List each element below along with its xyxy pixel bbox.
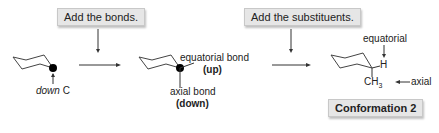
conformation-badge: Conformation 2 [328, 99, 423, 117]
step-label: Add the substituents. [251, 11, 354, 23]
down-carbon-dot [49, 64, 57, 72]
cyclohexane-chair-2 [139, 55, 180, 69]
cyclohexane-chair-3 [331, 53, 372, 68]
hydrogen-label: H [380, 59, 387, 70]
down-carbon-label: down C [36, 85, 70, 96]
step-label: Add the bonds. [64, 11, 138, 23]
axial-label: axial [411, 76, 432, 87]
step-add-substituents: Add the substituents. [244, 8, 361, 26]
equatorial-bond-label: equatorial bond [180, 52, 249, 63]
equatorial-direction: (up) [203, 64, 222, 75]
axial-bond-label: axial bond [170, 86, 216, 97]
methyl-label: CH3 [364, 76, 382, 89]
cyclohexane-chair-1 [13, 55, 53, 69]
badge-label: Conformation 2 [335, 102, 416, 114]
equatorial-label: equatorial [363, 33, 407, 44]
axial-direction: (down) [176, 98, 209, 109]
step-add-bonds: Add the bonds. [57, 8, 145, 26]
